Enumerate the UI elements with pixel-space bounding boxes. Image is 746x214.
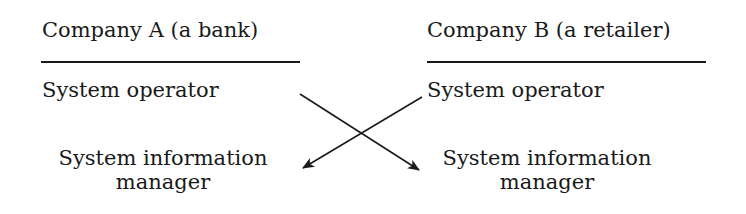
crossing-arrows <box>0 0 746 214</box>
